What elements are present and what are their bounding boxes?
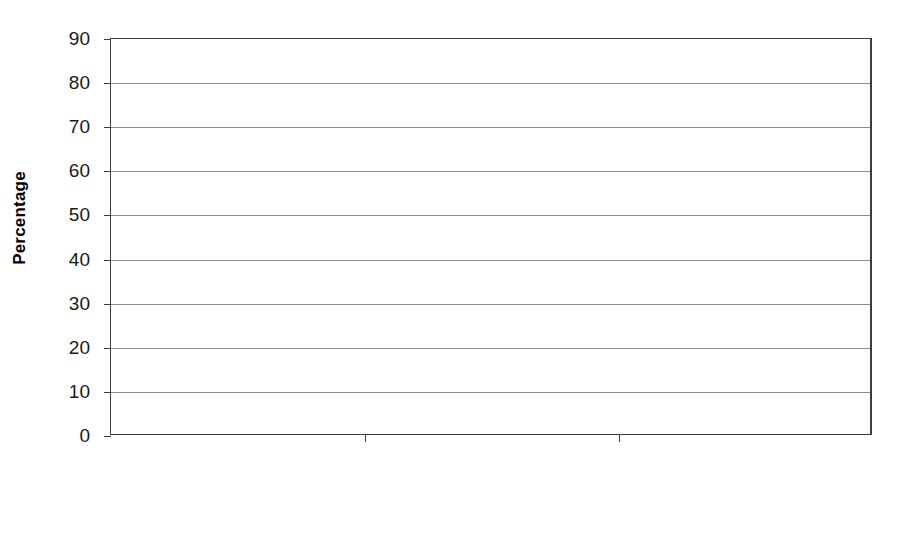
- y-axis-title-label: Percentage: [10, 171, 30, 265]
- gridline: [111, 127, 870, 128]
- y-axis-tick: [104, 392, 111, 393]
- y-axis-tick-label: 90: [69, 29, 90, 48]
- y-axis-tick: [104, 215, 111, 216]
- y-axis-title: Percentage: [0, 0, 40, 435]
- y-axis-tick: [104, 39, 111, 40]
- y-axis-tick-label: 80: [69, 73, 90, 92]
- gridline: [111, 392, 870, 393]
- y-axis-tick-label: 0: [79, 426, 90, 445]
- y-axis-tick: [104, 348, 111, 349]
- gridline: [111, 215, 870, 216]
- y-axis-tick-labels: 9080706050403020100: [40, 38, 100, 435]
- gridline: [111, 171, 870, 172]
- y-axis-tick: [104, 304, 111, 305]
- category-divider: [365, 434, 366, 442]
- y-axis-tick: [104, 171, 111, 172]
- y-axis-tick-label: 40: [69, 249, 90, 268]
- category-divider: [619, 434, 620, 442]
- y-axis-tick: [104, 127, 111, 128]
- y-axis-tick-label: 20: [69, 337, 90, 356]
- y-axis-tick-label: 50: [69, 205, 90, 224]
- y-axis-tick-label: 30: [69, 293, 90, 312]
- y-axis-tick-label: 10: [69, 381, 90, 400]
- y-axis-tick: [104, 436, 111, 437]
- gridline: [111, 304, 870, 305]
- gridline: [111, 83, 870, 84]
- gridline: [111, 348, 870, 349]
- y-axis-tick-label: 70: [69, 117, 90, 136]
- plot-area: [110, 38, 872, 435]
- y-axis-tick: [104, 260, 111, 261]
- y-axis-tick-label: 60: [69, 161, 90, 180]
- y-axis-tick: [104, 83, 111, 84]
- gridline: [111, 260, 870, 261]
- x-axis-category-labels: [110, 449, 872, 479]
- stacked-bar-chart: Percentage 9080706050403020100: [0, 0, 903, 543]
